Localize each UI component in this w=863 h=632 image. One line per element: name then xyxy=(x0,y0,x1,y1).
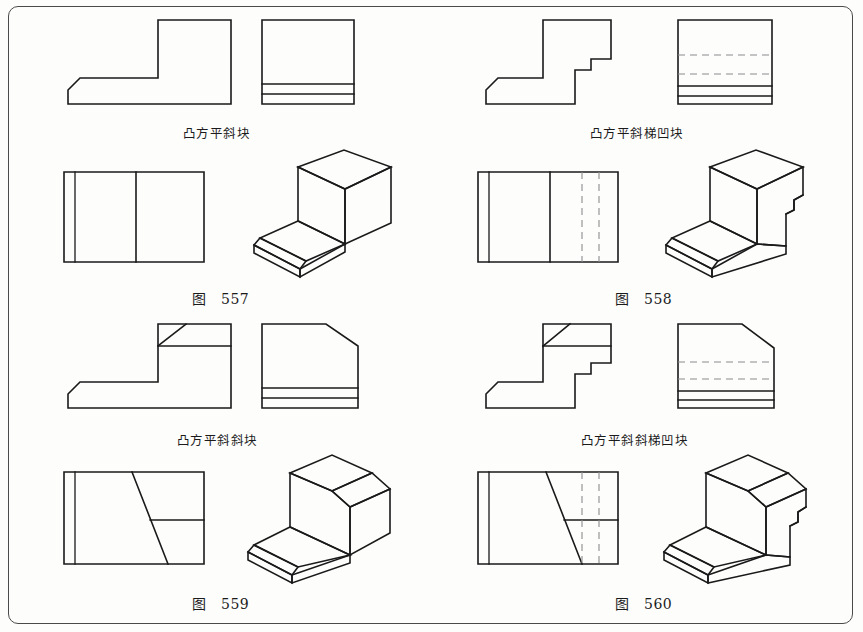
fig-560-caption: 凸方平斜斜梯凹块 xyxy=(581,430,688,449)
fig-558-top-view xyxy=(472,163,657,268)
drawing-page: 凸方平斜块 图557 凸方平斜梯凹块 xyxy=(0,0,863,632)
fig-559-number-value: 559 xyxy=(221,596,249,612)
fig-559-number-prefix: 图 xyxy=(192,596,206,612)
fig-557-side-view xyxy=(256,12,366,112)
fig-559-side-view xyxy=(256,316,371,416)
fig-560-isometric-view xyxy=(648,443,833,585)
fig-560-number: 图560 xyxy=(615,593,672,613)
fig-559-caption: 凸方平斜斜块 xyxy=(177,430,257,449)
fig-558-number-prefix: 图 xyxy=(615,291,629,307)
fig-557-front-view xyxy=(58,12,238,112)
fig-557-number-prefix: 图 xyxy=(192,291,206,307)
fig-560-number-prefix: 图 xyxy=(615,596,629,612)
fig-558-side-view xyxy=(672,12,787,112)
fig-557-caption: 凸方平斜块 xyxy=(183,123,250,142)
fig-560-side-view xyxy=(672,316,792,416)
fig-560-number-value: 560 xyxy=(644,596,672,612)
fig-557-number: 图557 xyxy=(192,288,249,308)
fig-557-isometric-view xyxy=(236,148,406,283)
fig-559-isometric-view xyxy=(232,443,412,585)
fig-560-top-view xyxy=(472,463,662,573)
fig-558-number: 图558 xyxy=(615,288,672,308)
fig-558-isometric-view xyxy=(648,148,828,283)
fig-560-front-view xyxy=(478,316,668,416)
fig-558-number-value: 558 xyxy=(644,291,672,307)
fig-559-front-view xyxy=(58,316,238,416)
fig-558-front-view xyxy=(478,12,668,112)
fig-559-number: 图559 xyxy=(192,593,249,613)
fig-559-top-view xyxy=(58,463,243,573)
fig-557-number-value: 557 xyxy=(221,291,249,307)
fig-558-caption: 凸方平斜梯凹块 xyxy=(590,123,684,142)
fig-557-top-view xyxy=(58,163,238,268)
